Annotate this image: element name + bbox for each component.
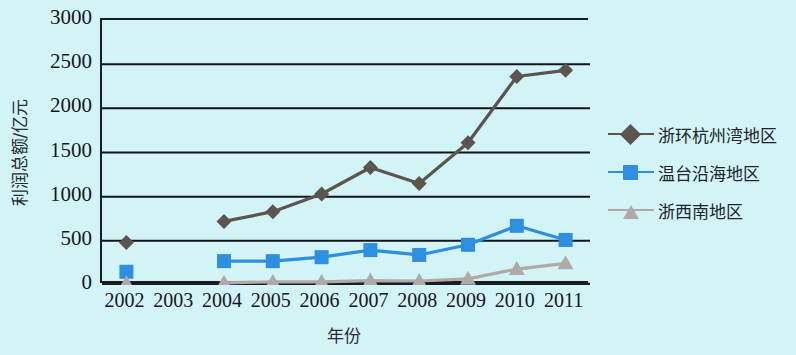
legend-diamond-icon: [620, 124, 641, 145]
y-tick-label: 0: [30, 272, 92, 293]
x-tick-label: 2011: [534, 290, 594, 310]
legend-label: 浙环杭州湾地区: [654, 122, 777, 147]
legend-item[interactable]: 浙环杭州湾地区: [608, 115, 796, 153]
data-point-marker: [412, 248, 426, 262]
data-point-marker: [119, 235, 134, 250]
legend-label: 浙西南地区: [654, 198, 743, 223]
data-point-marker: [363, 243, 377, 257]
y-tick-label: 3000: [30, 7, 92, 28]
y-tick-label: 1500: [30, 140, 92, 161]
legend-marker-sample: [608, 161, 654, 183]
plot-svg: [102, 20, 590, 285]
legend-square-icon: [623, 165, 638, 180]
data-point-marker: [411, 273, 427, 285]
data-point-marker: [558, 255, 574, 269]
y-tick-label: 1000: [30, 184, 92, 205]
y-tick-label: 500: [30, 228, 92, 249]
series-line: [224, 70, 566, 221]
data-point-marker: [510, 219, 524, 233]
data-point-marker: [559, 233, 573, 247]
y-tick-label: 2500: [30, 51, 92, 72]
legend-marker-sample: [608, 199, 654, 221]
data-point-marker: [265, 204, 280, 219]
y-axis-title: 利润总额/亿元: [6, 53, 31, 253]
data-point-marker: [314, 187, 329, 202]
data-point-marker: [266, 254, 280, 268]
data-point-marker: [362, 273, 378, 285]
legend-triangle-icon: [623, 205, 639, 219]
chart-legend: 浙环杭州湾地区温台沿海地区浙西南地区: [608, 115, 796, 229]
legend-label: 温台沿海地区: [654, 160, 760, 185]
line-chart-figure: 利润总额/亿元 050010001500200025003000 2002200…: [0, 0, 796, 355]
data-point-marker: [461, 238, 475, 252]
y-tick-label: 2000: [30, 95, 92, 116]
data-point-marker: [217, 214, 232, 229]
y-axis-tick-labels: 050010001500200025003000: [28, 0, 92, 300]
legend-marker-sample: [608, 123, 654, 145]
data-point-marker: [315, 250, 329, 264]
plot-area: [100, 18, 588, 283]
x-axis-title: 年份: [100, 322, 588, 347]
legend-item[interactable]: 温台沿海地区: [608, 153, 796, 191]
data-point-marker: [217, 254, 231, 268]
data-point-marker: [363, 160, 378, 175]
x-axis-tick-labels: 2002200320042005200620072008200920102011: [100, 290, 588, 316]
legend-item[interactable]: 浙西南地区: [608, 191, 796, 229]
